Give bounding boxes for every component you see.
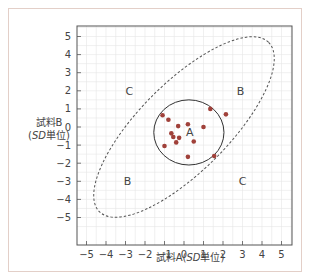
data-point — [212, 154, 217, 159]
y-tick-label: −2 — [56, 158, 71, 169]
data-point — [174, 140, 179, 145]
y-tick-label: 2 — [65, 85, 71, 96]
region-label-c: C — [126, 85, 134, 98]
y-axis-label-line2: (SD単位) — [22, 129, 76, 142]
data-point — [208, 107, 213, 112]
y-axis-label: 試料B (SD単位) — [22, 116, 76, 142]
y-tick-label: −5 — [56, 212, 71, 223]
x-tick-label: 5 — [278, 249, 284, 260]
data-point — [176, 124, 181, 129]
x-tick-label: −5 — [79, 249, 94, 260]
data-point — [171, 135, 176, 140]
x-tick-label: −4 — [99, 249, 114, 260]
x-tick-label: 4 — [259, 249, 265, 260]
plot-border — [77, 26, 292, 245]
data-point — [191, 139, 196, 144]
y-tick-label: 1 — [65, 103, 71, 114]
data-point — [160, 113, 165, 118]
region-label-a: A — [186, 126, 194, 139]
y-axis-label-line1: 試料B — [22, 116, 76, 129]
y-tick-label: −4 — [56, 194, 71, 205]
region-label-b: B — [124, 175, 132, 188]
data-point — [224, 112, 229, 117]
x-tick-label: −3 — [118, 249, 133, 260]
region-label-c: C — [239, 175, 247, 188]
data-point — [162, 144, 167, 149]
y-tick-label: −3 — [56, 176, 71, 187]
data-point — [186, 155, 191, 160]
data-point — [201, 125, 206, 130]
y-tick-label: 3 — [65, 67, 71, 78]
x-tick-label: 3 — [239, 249, 245, 260]
data-point — [166, 117, 171, 122]
data-point — [177, 136, 182, 141]
region-label-b: B — [237, 85, 245, 98]
y-tick-label: 5 — [65, 31, 71, 42]
y-tick-label: 4 — [65, 49, 71, 60]
x-axis-label: 試料A(SD単位) — [140, 249, 240, 264]
